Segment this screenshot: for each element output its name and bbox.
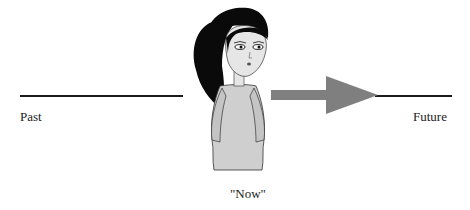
diagram-graphics xyxy=(0,0,470,210)
right-arrow-icon xyxy=(271,76,378,114)
girl-figure-icon xyxy=(194,8,269,170)
